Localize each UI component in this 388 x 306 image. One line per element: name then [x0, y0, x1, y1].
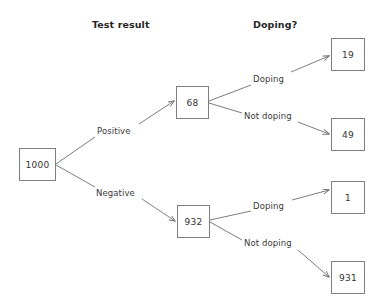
column-header-doping: Doping? — [253, 19, 297, 30]
node-positive-not-doping: 49 — [331, 118, 365, 151]
node-root: 1000 — [19, 148, 56, 181]
node-negative-doping: 1 — [331, 181, 365, 214]
edge-label-negative: Negative — [96, 188, 135, 198]
edge-negative-not-doping-seg1 — [210, 222, 242, 240]
edge-negative-doping-seg1 — [210, 211, 251, 220]
node-positive-doping: 19 — [331, 38, 365, 71]
edge-positive-doping-seg2 — [291, 56, 329, 72]
node-negative: 932 — [177, 205, 210, 238]
edge-label-negative-not-doping: Not doping — [244, 238, 292, 248]
edge-positive-doping-seg1 — [209, 85, 251, 101]
edge-negative-doping-seg2 — [292, 190, 329, 200]
edge-root-positive-seg2 — [139, 101, 174, 124]
edge-label-positive-doping: Doping — [253, 74, 284, 84]
node-negative-not-doping: 931 — [331, 261, 365, 294]
edge-negative-not-doping-seg2 — [298, 250, 329, 277]
edge-label-positive-not-doping: Not doping — [244, 111, 292, 121]
edge-positive-not-doping-seg2 — [298, 122, 329, 134]
edge-label-negative-doping: Doping — [253, 201, 284, 211]
edges-layer — [0, 0, 388, 306]
edge-positive-not-doping-seg1 — [209, 103, 242, 113]
column-header-test-result: Test result — [92, 19, 150, 30]
edge-root-positive-seg1 — [56, 137, 95, 164]
node-positive: 68 — [176, 86, 209, 119]
decision-tree-diagram: Test result Doping? 1000 68 932 19 49 1 … — [0, 0, 388, 306]
edge-label-positive: Positive — [97, 126, 131, 136]
edge-root-negative-seg2 — [142, 199, 175, 221]
edge-root-negative-seg1 — [56, 165, 95, 187]
